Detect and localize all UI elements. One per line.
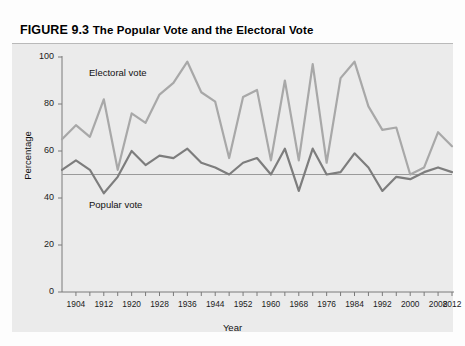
- series-label-electoral-vote: Electoral vote: [89, 67, 147, 78]
- y-axis-title: Percentage: [22, 111, 33, 201]
- figure-number: FIGURE 9.3: [20, 23, 89, 37]
- x-tick-label: 2012: [435, 299, 465, 309]
- y-tick-label: 20: [28, 239, 54, 249]
- y-tick-label: 80: [28, 98, 54, 108]
- series-label-popular-vote: Popular vote: [89, 199, 142, 210]
- figure-page: FIGURE 9.3 The Popular Vote and the Elec…: [0, 0, 465, 346]
- figure-title-text: The Popular Vote and the Electoral Vote: [93, 24, 314, 36]
- y-tick-label: 100: [28, 51, 54, 61]
- chart-panel: [12, 44, 453, 332]
- x-axis-title: Year: [0, 322, 465, 333]
- y-tick-label: 0: [28, 286, 54, 296]
- figure-title-row: FIGURE 9.3 The Popular Vote and the Elec…: [20, 20, 450, 38]
